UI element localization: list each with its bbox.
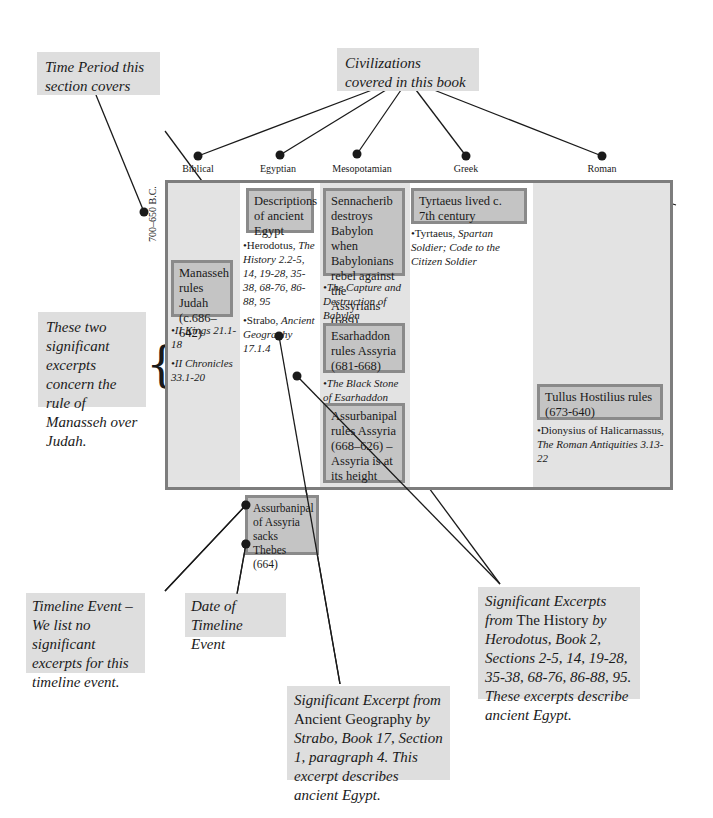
callout-time-period: Time Period this section covers	[37, 52, 160, 95]
ref-capture-babylon-text: •The Capture and Destruction of Babylon	[323, 280, 408, 322]
callout-timeline-event: Timeline Event – We list no significant …	[26, 593, 145, 673]
ref-strabo: •Strabo, Ancient Geography 17.1.4	[243, 313, 317, 355]
callout-herodotus-note: Significant Excerpts from The History by…	[478, 587, 640, 699]
refs-egyptian: •Herodotus, The History 2.2-5, 14, 19-28…	[243, 238, 317, 360]
refs-biblical: •II Kings 21.1-18 •II Chronicles 33.1-20	[171, 323, 237, 389]
civ-label-greek: Greek	[416, 163, 516, 175]
strabo-note-prefix: Significant Excerpt from	[294, 692, 441, 708]
callout-time-period-text: Time Period this section covers	[45, 59, 144, 94]
callout-manasseh-text: These two significant excerpts concern t…	[46, 319, 137, 449]
ref-black-stone-text: •The Black Stone of Esarhaddon	[323, 376, 408, 404]
callout-timeline-event-text: Timeline Event – We list no significant …	[32, 598, 133, 690]
herodotus-note-rest: by Herodotus, Book 2, Sections 2-5, 14, …	[485, 612, 631, 723]
strabo-note-title: Ancient Geography	[294, 711, 412, 727]
callout-strabo-note: Significant Excerpt from Ancient Geograp…	[287, 686, 450, 780]
callout-manasseh-excerpts: These two significant excerpts concern t…	[38, 312, 146, 407]
event-sack-of-thebes: Assurbanipal of Assyria sacks Thebes (66…	[245, 495, 319, 555]
ref-herodotus: •Herodotus, The History 2.2-5, 14, 19-28…	[243, 238, 317, 308]
ref-tyrtaeus: •Tyrtaeus, Spartan Soldier; Code to the …	[411, 226, 531, 273]
event-tyrtaeus: Tyrtaeus lived c. 7th century	[411, 188, 527, 224]
event-esarhaddon: Esarhaddon rules Assyria (681-668)	[323, 323, 405, 373]
timeline-frame: Manasseh rules Judah (c.686–642) •II Kin…	[165, 180, 673, 490]
herodotus-note-title: The History	[517, 612, 589, 628]
event-tullus-hostilius: Tullus Hostilius rules (673-640)	[537, 384, 663, 420]
ref-ii-kings: •II Kings 21.1-18	[171, 323, 237, 351]
ref-capture-babylon: •The Capture and Destruction of Babylon	[323, 280, 408, 327]
ref-dionysius-author: •Dionysius of Halicarnassus,	[537, 424, 664, 436]
ref-strabo-author: •Strabo,	[243, 314, 281, 326]
event-assurbanipal-rules: Assurbanipal rules Assyria (668–626) – A…	[323, 403, 405, 483]
callout-date-text: Date of Timeline Event	[191, 598, 243, 652]
ref-ii-chronicles: •II Chronicles 33.1-20	[171, 356, 237, 384]
ref-dionysius-work: The Roman Antiquities 3.13-22	[537, 438, 663, 464]
event-manasseh: Manasseh rules Judah (c.686–642)	[171, 260, 233, 317]
ref-dionysius: •Dionysius of Halicarnassus, The Roman A…	[537, 423, 667, 470]
time-period-label: 700–650 B.C.	[147, 186, 158, 242]
callout-civilizations: Civilizations covered in this book	[337, 48, 479, 91]
callout-date-of-event: Date of Timeline Event	[185, 593, 286, 637]
ref-herodotus-author: •Herodotus,	[243, 239, 298, 251]
civ-label-mesopotamian: Mesopotamian	[312, 163, 412, 175]
event-descriptions-egypt: Descriptions of ancient Egypt	[246, 188, 314, 233]
civ-label-roman: Roman	[552, 163, 652, 175]
event-sennacherib: Sennacherib destroys Babylon when Babylo…	[323, 188, 405, 276]
ref-tyrtaeus-author: •Tyrtaeus,	[411, 227, 458, 239]
callout-civilizations-text: Civilizations covered in this book	[345, 55, 466, 90]
